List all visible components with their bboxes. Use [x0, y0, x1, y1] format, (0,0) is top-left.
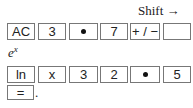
digit-2-key[interactable]: 2: [100, 66, 128, 83]
dot-icon: [143, 72, 148, 77]
digit-3-key[interactable]: 3: [69, 66, 98, 83]
exp-function-label: ex: [8, 42, 18, 60]
exp-exponent: x: [14, 44, 18, 54]
blank-key[interactable]: [163, 23, 191, 40]
decimal-point-key[interactable]: [130, 66, 160, 83]
ln-key[interactable]: ln: [7, 66, 35, 83]
sentence-period: .: [35, 86, 38, 100]
x-key[interactable]: x: [38, 66, 66, 83]
digit-5-key[interactable]: 5: [163, 66, 191, 83]
decimal-point-key[interactable]: [69, 23, 98, 40]
ac-key[interactable]: AC: [7, 23, 35, 40]
equals-key[interactable]: =: [7, 85, 34, 100]
dot-icon: [81, 29, 86, 34]
digit-3-key[interactable]: 3: [38, 23, 66, 40]
digit-7-key[interactable]: 7: [100, 23, 128, 40]
shift-arrow-label: Shift →: [138, 3, 180, 19]
plus-minus-key[interactable]: + / −: [130, 23, 160, 40]
